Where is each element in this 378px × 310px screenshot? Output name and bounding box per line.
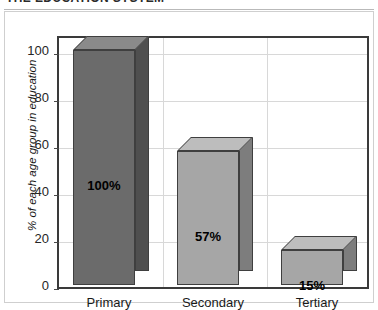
x-axis-category-label: Primary [57, 295, 161, 310]
bar-front-face: 15% [281, 250, 343, 285]
y-axis-tick [54, 101, 59, 102]
cutoff-title: THE EDUCATION SYSTEM [6, 0, 306, 6]
y-axis-tick-label: 20 [11, 231, 49, 246]
bar-value-label: 15% [299, 278, 325, 293]
bar-top-face [281, 236, 357, 250]
y-axis-tick [54, 195, 59, 196]
x-axis-category-label: Secondary [161, 295, 265, 310]
bar-front-face: 100% [73, 50, 135, 285]
header-divider [4, 9, 374, 10]
chart-frame: % of each age group in education 0204060… [4, 11, 374, 303]
cutoff-title-text: THE EDUCATION SYSTEM [6, 0, 164, 5]
y-axis-tick [54, 242, 59, 243]
y-axis-tick-label: 0 [11, 278, 49, 293]
bar: 100% [73, 36, 135, 285]
y-axis-tick-label: 80 [11, 90, 49, 105]
category-separator [163, 38, 164, 287]
y-axis-tick-label: 100 [11, 43, 49, 58]
plot-inner: 100%57%15% [59, 38, 367, 287]
bar-side-face [239, 137, 253, 271]
bar: 57% [177, 137, 239, 285]
y-axis-tick-label: 40 [11, 184, 49, 199]
y-axis-tick [54, 289, 59, 290]
bar-front-face: 57% [177, 151, 239, 285]
bar-side-face [135, 36, 149, 271]
y-axis-tick [54, 54, 59, 55]
y-axis-tick-label: 60 [11, 137, 49, 152]
bar: 15% [281, 236, 343, 285]
y-axis-tick [54, 148, 59, 149]
bar-value-label: 57% [195, 229, 221, 244]
bar-value-label: 100% [87, 178, 120, 193]
x-axis-category-label: Tertiary [265, 295, 369, 310]
category-separator [267, 38, 268, 287]
plot-area: 100%57%15% [57, 36, 369, 289]
